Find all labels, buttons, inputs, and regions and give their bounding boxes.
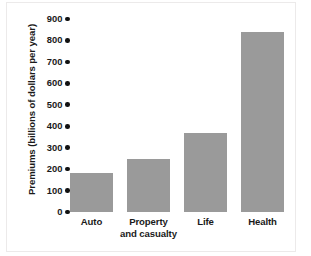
y-axis-tick: 800: [26, 34, 70, 46]
bar: [70, 173, 113, 212]
tick-dot-icon: [65, 124, 70, 129]
y-axis-tick: 400: [26, 120, 70, 132]
tick-dot-icon: [65, 145, 70, 150]
y-axis-tick: 300: [26, 142, 70, 154]
tick-dot-icon: [65, 38, 70, 43]
tick-dot-icon: [65, 102, 70, 107]
bar: [127, 159, 170, 212]
y-axis-tick: 500: [26, 99, 70, 111]
category-label-line: Health: [225, 216, 300, 228]
y-axis-tick: 100: [26, 185, 70, 197]
y-axis-tick: 200: [26, 163, 70, 175]
y-axis-tick: 600: [26, 77, 70, 89]
y-axis-tick-label: 800: [47, 34, 63, 46]
tick-dot-icon: [65, 17, 70, 22]
y-axis-tick-label: 200: [47, 163, 63, 175]
y-axis-tick: 700: [26, 56, 70, 68]
y-axis-tick-label: 300: [47, 142, 63, 154]
y-axis-tick-label: 600: [47, 77, 63, 89]
bar: [241, 32, 284, 212]
tick-dot-icon: [65, 81, 70, 86]
y-axis-tick-label: 500: [47, 99, 63, 111]
bar-chart-figure: Premiums (billions of dollars per year) …: [0, 0, 311, 256]
tick-dot-icon: [65, 60, 70, 65]
plot-area: Premiums (billions of dollars per year) …: [0, 0, 311, 256]
tick-dot-icon: [65, 167, 70, 172]
y-axis-tick-label: 900: [47, 13, 63, 25]
x-axis-category-label: Health: [225, 216, 300, 228]
y-axis-tick-label: 700: [47, 56, 63, 68]
category-label-line: and casualty: [111, 228, 186, 240]
bar: [184, 133, 227, 212]
y-axis-tick-label: 100: [47, 185, 63, 197]
y-axis-tick: 900: [26, 13, 70, 25]
y-axis-tick-label: 400: [47, 120, 63, 132]
